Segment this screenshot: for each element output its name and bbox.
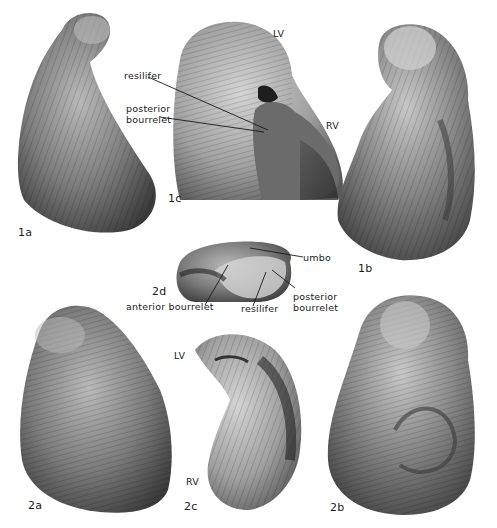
label-bourrelet-1c: bourrelet [126, 114, 171, 125]
label-bourrelet-2d: bourrelet [293, 302, 338, 313]
figure-label-2d: 2d [152, 286, 166, 297]
label-lv-1c: LV [273, 28, 284, 39]
label-posterior-2d: posterior [293, 291, 337, 302]
figure-label-2a: 2a [28, 500, 42, 511]
specimen-photographs [0, 0, 497, 528]
fossil-plate: LV RV resilifer posterior bourrelet umbo… [0, 0, 497, 528]
specimen-1c [173, 22, 343, 200]
figure-label-2c: 2c [184, 501, 197, 512]
specimen-2a [20, 306, 172, 513]
specimen-2c [195, 334, 301, 510]
label-resilifer-1c: resilifer [124, 70, 161, 81]
specimen-2b [328, 295, 475, 515]
figure-label-1c: 1c [168, 193, 181, 204]
figure-label-2b: 2b [330, 502, 344, 513]
figure-label-1b: 1b [358, 263, 372, 274]
specimen-1b [338, 24, 475, 260]
label-resilifer-2d: resilifer [241, 303, 278, 314]
label-posterior-1c: posterior [126, 103, 170, 114]
figure-label-1a: 1a [18, 227, 32, 238]
label-rv-1c: RV [326, 120, 339, 131]
label-anterior-bourrelet-2d: anterior bourrelet [126, 301, 214, 312]
label-umbo-2d: umbo [303, 252, 331, 263]
label-lv-2c: LV [174, 350, 185, 361]
label-rv-2c: RV [186, 476, 199, 487]
